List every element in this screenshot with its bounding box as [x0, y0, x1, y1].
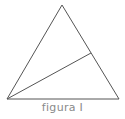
triangle	[7, 5, 119, 99]
figure-caption: figura I	[0, 101, 125, 114]
cevian-segment	[7, 53, 91, 99]
